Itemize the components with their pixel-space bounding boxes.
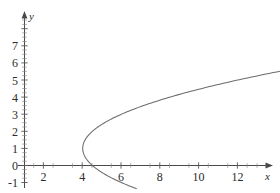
y-tick-label: -1 <box>8 176 18 190</box>
x-tick-label: 2 <box>40 170 46 184</box>
parabola-curve <box>83 46 280 189</box>
x-axis-label: x <box>264 170 270 182</box>
x-tick-label: 6 <box>118 170 124 184</box>
y-tick-label: 5 <box>12 74 18 88</box>
plot-canvas: 2 4 6 8 10 12 -1 0 1 2 3 4 5 6 7 y x <box>0 0 280 193</box>
y-tick-label: 0 <box>12 159 18 173</box>
x-tick-label: 4 <box>79 170 85 184</box>
y-tick-label: 1 <box>12 142 18 156</box>
x-tick-label: 10 <box>193 170 205 184</box>
graph-figure: 2 4 6 8 10 12 -1 0 1 2 3 4 5 6 7 y x <box>0 0 280 193</box>
y-tick-label: 6 <box>12 56 18 70</box>
y-tick-label: 4 <box>12 91 18 105</box>
x-tick-label: 12 <box>231 170 243 184</box>
y-tick-label: 3 <box>12 108 18 122</box>
y-axis-arrow-icon <box>22 11 28 19</box>
x-axis-arrow-icon <box>266 163 274 169</box>
x-tick-label: 8 <box>157 170 163 184</box>
y-tick-label: 2 <box>12 125 18 139</box>
y-axis-label: y <box>28 10 34 22</box>
y-tick-label: 7 <box>12 39 18 53</box>
